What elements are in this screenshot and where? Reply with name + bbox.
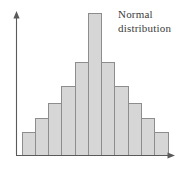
histogram-bar <box>49 103 62 155</box>
histogram-bar <box>35 118 48 155</box>
histogram-bar <box>128 103 141 155</box>
histogram-bar <box>155 132 168 155</box>
histogram-bar <box>141 118 154 155</box>
annotation-line-2: distribution <box>118 22 171 34</box>
histogram-bar <box>88 13 101 156</box>
histogram-bar <box>102 62 115 155</box>
histogram-bar <box>62 86 75 155</box>
normal-distribution-figure: Normal distribution <box>0 0 189 169</box>
histogram-bar <box>75 62 88 155</box>
annotation-line-1: Normal <box>118 8 153 20</box>
histogram-bar <box>115 86 128 155</box>
histogram-bar <box>22 132 35 155</box>
histogram-chart: Normal distribution <box>0 0 189 169</box>
